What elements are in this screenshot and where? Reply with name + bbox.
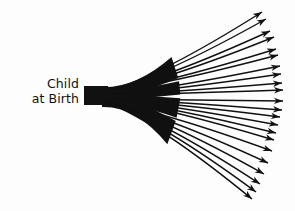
arrowhead-icon <box>247 184 256 192</box>
arrowhead-icon <box>255 167 264 174</box>
arrowhead-icon <box>251 176 260 184</box>
arrowhead-icon <box>253 12 262 20</box>
arrowhead-icon <box>257 19 266 26</box>
branching-arrows-figure <box>0 0 295 211</box>
branch-line <box>106 19 266 92</box>
diagram-canvas: Child at Birth <box>0 0 295 211</box>
